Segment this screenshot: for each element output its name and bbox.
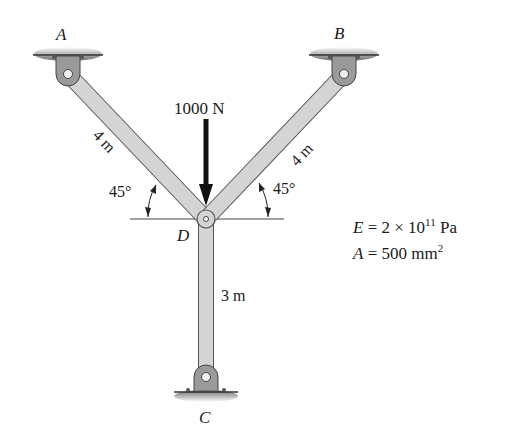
member-ad — [68, 74, 206, 219]
load-arrow — [199, 119, 213, 206]
node-label-c: C — [199, 408, 211, 427]
support-c — [174, 365, 238, 402]
angle-arc-left — [145, 185, 156, 217]
truss-diagram: A B C D 1000 N 4 m 4 m 3 m 45° 45° E = 2… — [0, 0, 520, 439]
node-label-d: D — [176, 226, 190, 245]
area-label: A = 500 mm2 — [352, 242, 443, 263]
angle-label-left: 45° — [109, 183, 131, 200]
angle-label-right: 45° — [273, 180, 295, 197]
modulus-label: E = 2 × 1011 Pa — [352, 216, 457, 237]
support-a — [33, 47, 103, 86]
joint-d — [197, 210, 215, 228]
member-cd — [198, 219, 214, 377]
member-bd-length: 4 m — [287, 139, 317, 169]
node-label-a: A — [55, 25, 67, 44]
member-bd — [206, 74, 344, 219]
support-b — [309, 47, 379, 86]
angle-arc-right — [259, 183, 271, 217]
load-label: 1000 N — [174, 99, 225, 118]
member-cd-length: 3 m — [221, 287, 246, 304]
node-label-b: B — [334, 24, 345, 43]
